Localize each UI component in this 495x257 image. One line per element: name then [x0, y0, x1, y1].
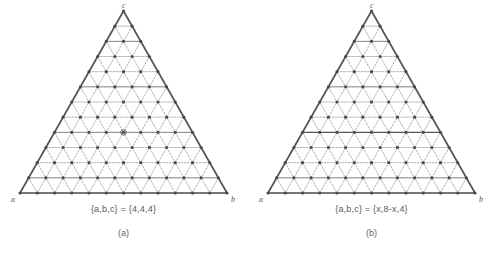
vertex-label-a-b: a — [259, 196, 263, 204]
triangular-lattice-svg-a — [0, 0, 247, 212]
caption-equation-a: {a,b,c} = {4,4,4} — [0, 204, 247, 214]
triangle-diagram-a — [0, 0, 247, 212]
panel-label-b: (b) — [248, 228, 495, 238]
figure-two-triangular-lattices: c a b {a,b,c} = {4,4,4} (a) c a b {a,b,c… — [0, 0, 495, 257]
triangle-diagram-b — [248, 0, 495, 212]
vertex-label-a-a: a — [11, 196, 15, 204]
panel-a: c a b {a,b,c} = {4,4,4} (a) — [0, 0, 247, 257]
caption-equation-b: {a,b,c} = {x,8-x,4} — [248, 204, 495, 214]
triangular-lattice-svg-b — [248, 0, 495, 212]
panel-b: c a b {a,b,c} = {x,8-x,4} (b) — [248, 0, 495, 257]
vertex-label-c-b: c — [370, 2, 374, 10]
vertex-label-b-b: b — [479, 196, 483, 204]
vertex-label-c-a: c — [122, 2, 126, 10]
vertex-label-b-a: b — [231, 196, 235, 204]
panel-label-a: (a) — [0, 228, 247, 238]
